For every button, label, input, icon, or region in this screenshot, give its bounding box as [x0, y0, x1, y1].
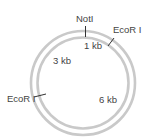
- ecori-right-label: EcoR I: [113, 24, 142, 35]
- noti-label: NotI: [76, 13, 93, 24]
- segment-3kb-label: 3 kb: [53, 55, 71, 66]
- plasmid-map: NotI EcoR I EcoR I 1 kb 3 kb 6 kb: [0, 0, 149, 140]
- outer-ring: [31, 31, 135, 135]
- segment-1kb-label: 1 kb: [84, 40, 102, 51]
- ecori-left-label: EcoR I: [7, 93, 36, 104]
- inner-ring: [38, 38, 129, 129]
- segment-6kb-label: 6 kb: [99, 94, 117, 105]
